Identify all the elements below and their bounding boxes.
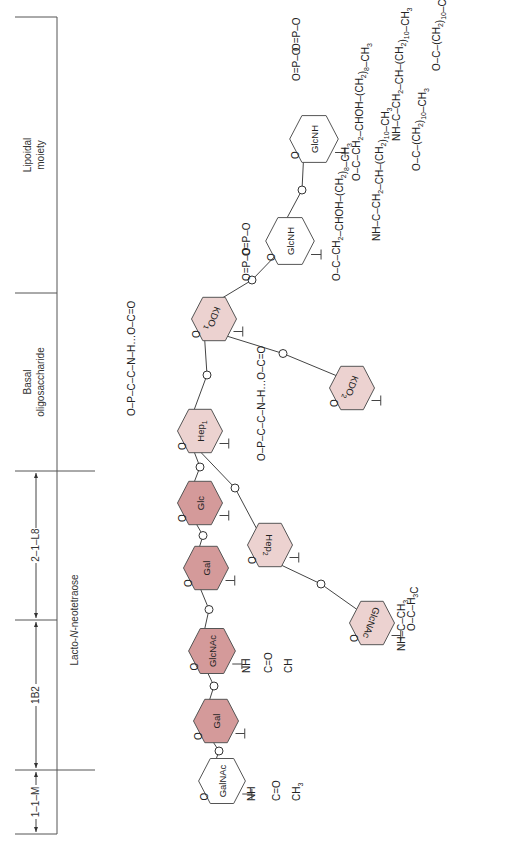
- label-lacto-n-neotetraose: Lacto-N-neotetraose: [69, 574, 80, 666]
- link-glcnac-gal-oxygen: [205, 606, 213, 614]
- span-1-1-m-label: 1–1–M: [30, 787, 41, 818]
- glcnh2-acyl-chain-3: O–C–(CH2)10–CH3: [431, 0, 450, 71]
- galnac-carbonyl: C=O: [271, 780, 282, 801]
- glcnac2-acetyl: O–C–H3C: [406, 586, 420, 631]
- glcnh1-acyl-chain-3: O–C–(CH2)10–CH3: [411, 88, 430, 171]
- link-glc-hep1-oxygen: [196, 463, 204, 471]
- span-2-1-l8-label: 2–1–L8: [30, 528, 41, 562]
- ring-oxygen: O: [349, 634, 360, 642]
- label-lipoidal-1: Lipoidal: [22, 138, 33, 172]
- ring-oxygen: O: [329, 399, 340, 407]
- sugar-hep1: OHep1: [177, 409, 229, 452]
- sugar-label: Glc: [195, 496, 206, 511]
- ring-oxygen: O: [177, 442, 188, 450]
- sugar-glcnh2: OGlcNH: [290, 116, 345, 163]
- hep1-phosphoethanolamine: O–P–C–C–N–H…O–C=O: [126, 300, 137, 416]
- galnac-ch3: CH3: [291, 783, 304, 801]
- ring-oxygen: O: [290, 151, 301, 159]
- glcnac-ch: CH: [283, 659, 294, 673]
- chemical-groups: NHC=OCH3NHC=OCHNH–C–CH3O–C–H3CO–P–C–C–N–…: [126, 0, 450, 801]
- label-basal-1: Basal: [22, 369, 33, 394]
- sugar-label: Gal: [201, 561, 212, 576]
- ring-oxygen: O: [199, 792, 210, 800]
- span-1b2: 1B2: [30, 622, 41, 768]
- span-2-1-l8: 2–1–L8: [30, 473, 41, 618]
- link-gal-glc-oxygen: [199, 532, 207, 540]
- ring-oxygen: O: [193, 732, 204, 740]
- glcnh1-acyl-chain-1: O–C–CH2–CHOH–(CH2)8–CH3: [331, 143, 353, 281]
- sugar-glc: OGlc: [177, 481, 229, 524]
- glcnh2-phosphate-1: O=P–O: [291, 47, 302, 81]
- link-kdo2-kdo1-oxygen: [279, 350, 287, 358]
- label-lipoidal-2: moiety: [35, 140, 46, 169]
- sugar-label: GlcNH: [309, 125, 320, 153]
- ring-oxygen: O: [177, 514, 188, 522]
- sugar-label: GalNAc: [217, 764, 228, 797]
- ring-oxygen: O: [183, 579, 194, 587]
- sugar-kdo1: OKDO1: [191, 297, 243, 340]
- ring-oxygen: O: [189, 662, 200, 670]
- sugar-glcnh1: OGlcNH: [266, 218, 321, 265]
- link-kdo2-kdo1-bond: [283, 354, 342, 379]
- sugar-label: GlcNAc: [207, 635, 218, 667]
- ring-oxygen: O: [247, 556, 258, 564]
- link-gal-glcnac-oxygen: [210, 682, 218, 690]
- glcnh2-phosphate-2: O=P–O: [291, 17, 302, 51]
- link-glcnac-hep2-bond: [321, 584, 362, 613]
- sugar-label: Gal: [211, 714, 222, 729]
- glcnh2-acyl-chain-1: O–C–CH2–CHOH–(CH2)8–CH3: [351, 43, 373, 181]
- hep2-phosphoethanolamine: O–P–C–C–N–H…O–C=O: [256, 345, 267, 461]
- sugar-glcnac2: OGlcNAc: [349, 601, 401, 644]
- span-1b2-label: 1B2: [30, 686, 41, 704]
- ring-oxygen: O: [191, 330, 202, 338]
- sugar-galnac: OGalNAc: [199, 759, 252, 804]
- glcnh2-acyl-chain-2: NH–C–CH2–CH–(CH2)10–CH3: [391, 7, 413, 141]
- diagram-stage: Lipoidal moiety Basal oligosaccharide La…: [0, 0, 507, 841]
- sugar-kdo2: OKDO2: [329, 366, 381, 409]
- ring-oxygen: O: [266, 253, 277, 261]
- glcnac-carbonyl: C=O: [263, 652, 274, 673]
- galnac-nh: NH: [246, 787, 257, 801]
- link-glcnh-glcnh-oxygen: [298, 186, 306, 194]
- glcnh1-phosphate-2: O=P–O: [241, 222, 252, 256]
- sugar-rings: OGalNAcOGalOGlcNAcOGalOGlcOHep1OHep2OGlc…: [177, 116, 401, 804]
- label-basal-2: oligosaccharide: [35, 347, 46, 417]
- link-hep2-hep1-oxygen: [231, 484, 239, 492]
- sugar-glcnac1: OGlcNAc: [189, 629, 242, 674]
- glcnac-nh: NH: [241, 659, 252, 673]
- sugar-hep2: OHep2: [247, 523, 299, 566]
- link-hep1-kdo1-oxygen: [203, 371, 211, 379]
- glcnh1-acyl-chain-2: NH–C–CH2–CH–(CH2)10–CH3: [371, 107, 393, 241]
- sugar-gal2: OGal: [183, 546, 235, 589]
- sugar-gal1: OGal: [193, 699, 245, 742]
- span-1-1-m: 1–1–M: [30, 772, 41, 832]
- lipooligosaccharide-diagram: Lipoidal moiety Basal oligosaccharide La…: [0, 0, 507, 841]
- link-galnac-gal-oxygen: [215, 747, 223, 755]
- link-glcnac-hep2-oxygen: [317, 580, 325, 588]
- sugar-label: GlcNH: [285, 227, 296, 255]
